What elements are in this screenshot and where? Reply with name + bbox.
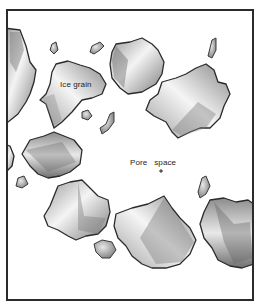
ice-grain-bottom-right [200,198,252,268]
ice-grain-left-middle [22,132,82,178]
particle-6 [16,176,28,188]
ice-grain-top-middle [110,38,164,94]
ice-grain-bottom-left [44,180,110,240]
pore-space-label: Pore space [130,158,176,167]
particle-9 [160,170,162,172]
figure-canvas: Ice grain Pore space [0,0,257,306]
particle-4 [82,110,92,120]
ice-grain-label: Ice grain [60,80,92,89]
ice-grain-illustration [8,11,252,299]
ice-grain-bottom-center [114,196,196,268]
particle-5 [100,112,114,134]
ice-grain-left-top [8,28,36,122]
figure-frame: Ice grain Pore space [6,9,254,301]
particle-1 [50,42,58,54]
ice-grain-labelled [40,61,106,128]
particle-3 [208,38,216,58]
particle-2 [90,42,104,54]
ice-grain-left-edge-middle [8,144,14,172]
particle-8 [94,240,116,258]
particle-7 [198,176,210,198]
